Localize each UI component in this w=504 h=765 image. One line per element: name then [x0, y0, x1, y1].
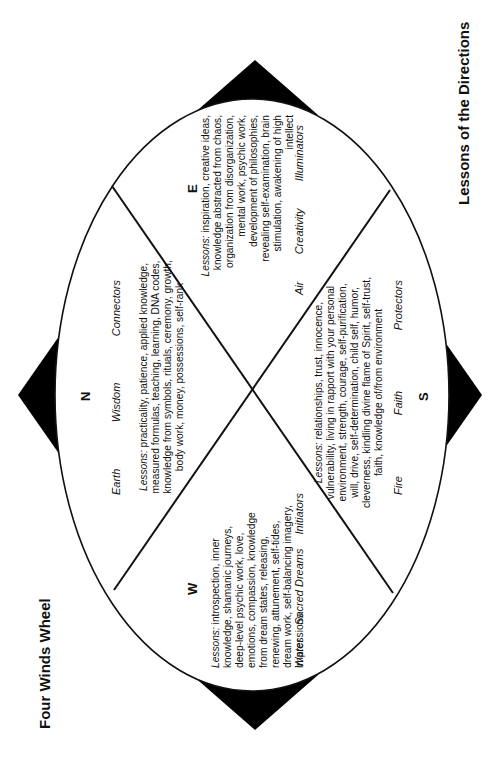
- west-lessons: Lessons: introspection, inner knowledge,…: [210, 498, 306, 668]
- north-quality: Wisdom: [110, 383, 122, 423]
- west-element: Water: [293, 639, 305, 668]
- north-letter: N: [78, 392, 93, 401]
- west-letter: W: [185, 583, 200, 595]
- east-element: Air: [293, 282, 305, 295]
- north-attributes: Earth Wisdom Connectors: [110, 280, 122, 495]
- west-lessons-label: Lessons:: [210, 627, 221, 668]
- north-lessons-label: Lessons:: [138, 450, 149, 491]
- east-role: Illuminators: [293, 125, 305, 181]
- east-quality: Creativity: [293, 208, 305, 254]
- south-letter: S: [416, 392, 431, 401]
- south-quality: Faith: [392, 391, 404, 415]
- north-element: Earth: [110, 469, 122, 495]
- west-attributes: Water Sacred Dreams Initiators: [293, 493, 305, 668]
- east-lessons: Lessons: inspiration, creative ideas, kn…: [200, 115, 296, 285]
- east-lessons-label: Lessons:: [200, 236, 211, 277]
- north-role: Connectors: [110, 280, 122, 336]
- south-attributes: Fire Faith Protectors: [392, 280, 404, 495]
- east-letter: E: [185, 184, 200, 193]
- west-role: Initiators: [293, 493, 305, 535]
- north-lessons: Lessons: practicality, patience, applied…: [138, 257, 186, 497]
- east-lessons-text: inspiration, creative ideas, knowledge a…: [200, 115, 295, 270]
- south-element: Fire: [392, 476, 404, 495]
- west-quality: Sacred Dreams: [293, 549, 305, 625]
- south-lessons: Lessons: relationships, trust, innocence…: [313, 275, 385, 510]
- south-role: Protectors: [392, 280, 404, 330]
- west-lessons-text: introspection, inner knowledge, shamanic…: [210, 505, 305, 668]
- diagram-page: Four Winds Wheel Lessons of the Directio…: [0, 0, 504, 765]
- south-lessons-label: Lessons:: [313, 442, 324, 483]
- east-attributes: Air Creativity Illuminators: [293, 125, 305, 295]
